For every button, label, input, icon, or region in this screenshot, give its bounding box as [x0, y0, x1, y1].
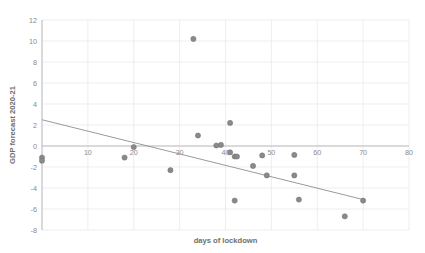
data-point	[131, 144, 136, 149]
x-tick-label: 30	[176, 148, 184, 157]
data-point	[39, 158, 44, 163]
y-tick-label: 10	[29, 37, 37, 46]
y-tick-label: 2	[33, 121, 37, 130]
data-point	[218, 142, 223, 147]
x-tick-label: 10	[84, 148, 92, 157]
data-point	[122, 155, 127, 160]
y-axis-title: GDP forecast 2020-21	[8, 85, 17, 164]
x-tick-label: 60	[313, 148, 321, 157]
y-tick-label: -8	[31, 226, 37, 235]
y-tick-label: 4	[33, 100, 37, 109]
x-axis-title: days of lockdown	[194, 236, 258, 245]
data-point	[232, 198, 237, 203]
data-point	[191, 36, 196, 41]
data-point	[227, 150, 232, 155]
x-tick-label: 50	[267, 148, 275, 157]
data-point	[264, 173, 269, 178]
y-tick-label: -2	[31, 163, 37, 172]
data-point	[234, 154, 239, 159]
data-point	[342, 214, 347, 219]
data-point	[296, 197, 301, 202]
data-point	[292, 173, 297, 178]
data-points	[39, 36, 365, 219]
y-tick-label: 8	[33, 58, 37, 67]
data-point	[260, 153, 265, 158]
y-tick-label: -6	[31, 205, 37, 214]
chart-canvas: 1020304050607080 -8-6-4-2024681012 days …	[0, 0, 425, 253]
y-tick-label: 0	[33, 142, 37, 151]
data-point	[227, 120, 232, 125]
x-tick-label: 70	[359, 148, 367, 157]
data-point	[168, 168, 173, 173]
scatter-chart: 1020304050607080 -8-6-4-2024681012 days …	[0, 0, 425, 253]
y-tick-labels: -8-6-4-2024681012	[29, 16, 37, 235]
y-tick-label: 6	[33, 79, 37, 88]
data-point	[250, 163, 255, 168]
data-point	[292, 152, 297, 157]
x-tick-label: 80	[405, 148, 413, 157]
y-tick-label: -4	[31, 184, 37, 193]
data-point	[361, 198, 366, 203]
data-point	[195, 133, 200, 138]
trend-line	[42, 120, 363, 200]
y-tick-label: 12	[29, 16, 37, 25]
trend-line-segment	[42, 120, 363, 200]
